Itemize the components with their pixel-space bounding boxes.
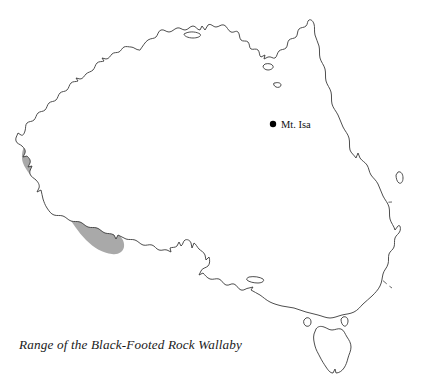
australia-mainland-coastline xyxy=(16,20,401,318)
figure-caption: Range of the Black-Footed Rock Wallaby xyxy=(19,337,242,353)
mornington-island xyxy=(274,83,281,88)
mount-isa-city-label: Mt. Isa xyxy=(281,119,311,130)
flinders-island xyxy=(341,317,348,326)
australia-map-svg: Mt. Isa xyxy=(0,0,428,385)
melville-island xyxy=(184,32,201,38)
king-island xyxy=(304,318,311,327)
mount-isa-city-dot[interactable] xyxy=(270,121,276,127)
range-map-figure: Mt. Isa Range of the Black-Footed Rock W… xyxy=(0,0,428,385)
groote-eylandt-island xyxy=(263,64,273,70)
fraser-island xyxy=(396,172,403,183)
tasmania-island xyxy=(314,326,351,373)
